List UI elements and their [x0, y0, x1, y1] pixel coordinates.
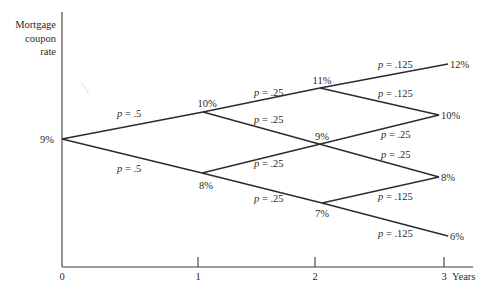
- x-tick-labels: 0 1 2 3 Years: [59, 271, 475, 282]
- rate-label-n2u: 11%: [313, 75, 332, 86]
- x-axis-unit-label: Years: [452, 271, 475, 282]
- rate-label-n1u: 10%: [197, 98, 217, 109]
- prob-label-1d-up: p = .25: [253, 158, 284, 169]
- prob-label-2m-down: p = .25: [380, 149, 411, 160]
- prob-label-2u-down: p = .125: [377, 88, 413, 99]
- prob-label-0-down: p = .5: [116, 163, 141, 174]
- prob-label-2m-up: p = .25: [380, 129, 411, 140]
- y-label-line-1: Mortgage: [15, 19, 56, 30]
- rate-label-n0: 9%: [40, 134, 54, 145]
- rate-label-n1d: 8%: [199, 180, 213, 191]
- rate-label-n3d: 6%: [450, 231, 464, 242]
- prob-label-1d-down: p = .25: [253, 193, 284, 204]
- prob-label-2d-up: p = .125: [377, 191, 413, 202]
- x-tick-label-0: 0: [59, 271, 64, 282]
- rate-label-n3b: 10%: [441, 110, 461, 121]
- x-tick-label-1: 1: [195, 271, 200, 282]
- prob-label-2u-up: p = .125: [377, 59, 413, 70]
- prob-label-2d-down: p = .125: [377, 228, 413, 239]
- rate-label-n2m: 9%: [315, 131, 329, 142]
- prob-label-1u-down: p = .25: [253, 114, 284, 125]
- scan-artifact: [81, 82, 89, 94]
- rate-label-n3c: 8%: [441, 172, 455, 183]
- x-tick-label-2: 2: [312, 271, 317, 282]
- interest-rate-tree-diagram: Mortgage coupon rate 0 1 2 3 Years 9% 10…: [0, 0, 499, 297]
- prob-label-1u-up: p = .25: [253, 87, 284, 98]
- prob-label-0-up: p = .5: [116, 108, 141, 119]
- y-label-line-2: coupon: [25, 33, 57, 44]
- probability-labels: p = .5 p = .5 p = .25 p = .25 p = .25 p …: [116, 59, 413, 239]
- y-axis-label: Mortgage coupon rate: [15, 19, 57, 57]
- rate-label-n2d: 7%: [315, 208, 329, 219]
- x-tick-label-3: 3: [441, 271, 446, 282]
- y-label-line-3: rate: [40, 46, 56, 57]
- branch-1d-up-long: [202, 115, 439, 173]
- rate-label-n3a: 12%: [450, 59, 470, 70]
